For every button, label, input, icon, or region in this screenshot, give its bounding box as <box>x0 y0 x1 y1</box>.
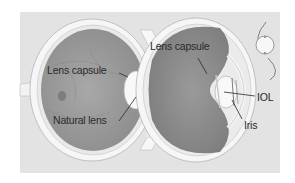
label-iol: IOL <box>257 92 273 103</box>
label-natural-lens: Natural lens <box>53 115 107 126</box>
macula <box>58 91 66 101</box>
label-iris: Iris <box>244 120 257 131</box>
diagram-artwork <box>0 0 295 183</box>
label-lens-capsule-right: Lens capsule <box>150 41 209 52</box>
eye-diagram: Lens capsule Natural lens Lens capsule I… <box>0 0 295 183</box>
label-lens-capsule-left: Lens capsule <box>47 65 106 76</box>
